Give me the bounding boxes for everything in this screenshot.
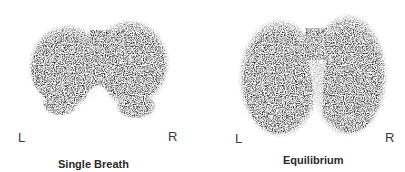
equilibrium-caption: Equilibrium [283,155,344,166]
equilibrium-panel: L R Equilibrium [200,0,405,172]
single-breath-panel: L R Single Breath [0,0,200,172]
equilibrium-lung-scan-image [200,0,405,150]
right-side-marker: R [385,131,394,144]
left-side-marker: L [235,132,242,145]
right-side-marker: R [168,130,177,143]
single-breath-caption: Single Breath [58,159,129,170]
single-breath-lung-scan-image [0,0,200,150]
left-side-marker: L [18,131,25,144]
